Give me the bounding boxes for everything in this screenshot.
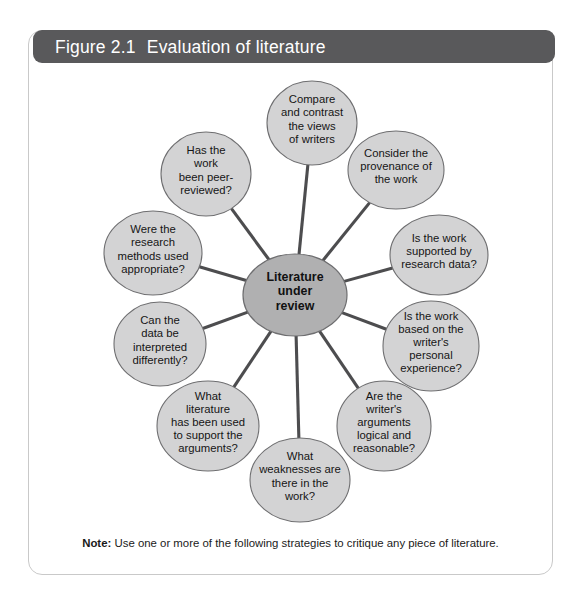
note-text: Use one or more of the following strateg… bbox=[114, 537, 498, 549]
figure-number: Figure 2.1 bbox=[55, 36, 136, 56]
spoke-based-on-personal-experience bbox=[342, 313, 386, 330]
center-node-layer: Literatureunderreview bbox=[243, 254, 347, 336]
node-literature-supporting-arguments[interactable]: Whatliteraturehas been usedto support th… bbox=[157, 381, 259, 471]
node-compare-contrast-views[interactable]: Compareand contrastthe viewsof writers bbox=[267, 81, 357, 165]
spoke-research-methods-appropriate bbox=[199, 267, 246, 281]
node-research-methods-appropriate[interactable]: Were theresearchmethods usedappropriate? bbox=[104, 211, 202, 295]
radial-diagram: Compareand contrastthe viewsof writersCo… bbox=[28, 63, 553, 525]
node-label: Is the worksupported byresearch data? bbox=[401, 232, 476, 270]
spoke-consider-provenance bbox=[323, 203, 370, 261]
spoke-literature-supporting-arguments bbox=[234, 331, 271, 387]
figure-container: Figure 2.1Evaluation of literature Compa… bbox=[0, 0, 579, 593]
note-label: Note: bbox=[82, 537, 111, 549]
spoke-data-interpreted-differently bbox=[203, 312, 248, 328]
spoke-peer-reviewed bbox=[231, 209, 268, 260]
figure-title-bar: Figure 2.1Evaluation of literature bbox=[33, 30, 555, 63]
node-supported-by-research-data[interactable]: Is the worksupported byresearch data? bbox=[390, 215, 488, 295]
node-label: Can thedata beinterpreteddifferently? bbox=[132, 314, 187, 366]
node-literature-under-review[interactable]: Literatureunderreview bbox=[243, 254, 347, 336]
figure-title-label: Evaluation of literature bbox=[147, 36, 326, 56]
spoke-arguments-logical-reasonable bbox=[320, 331, 359, 388]
node-weaknesses-in-work[interactable]: Whatweaknesses arethere in thework? bbox=[250, 438, 350, 522]
node-data-interpreted-differently[interactable]: Can thedata beinterpreteddifferently? bbox=[114, 302, 206, 386]
spoke-weaknesses-in-work bbox=[296, 336, 299, 438]
node-label: Has theworkbeen peer-reviewed? bbox=[179, 144, 234, 196]
node-arguments-logical-reasonable[interactable]: Are thewriter'sargumentslogical andreaso… bbox=[337, 381, 431, 471]
figure-title: Figure 2.1Evaluation of literature bbox=[55, 36, 326, 57]
figure-note: Note: Use one or more of the following s… bbox=[28, 536, 553, 551]
node-label: Compareand contrastthe viewsof writers bbox=[281, 93, 344, 145]
diagram-canvas: Compareand contrastthe viewsof writersCo… bbox=[28, 63, 553, 525]
node-peer-reviewed[interactable]: Has theworkbeen peer-reviewed? bbox=[161, 132, 251, 216]
spoke-supported-by-research-data bbox=[344, 268, 393, 281]
spoke-compare-contrast-views bbox=[299, 165, 308, 254]
node-based-on-personal-experience[interactable]: Is the workbased on thewriter'spersonale… bbox=[383, 301, 479, 391]
node-consider-provenance[interactable]: Consider theprovenance ofthe work bbox=[348, 131, 444, 209]
